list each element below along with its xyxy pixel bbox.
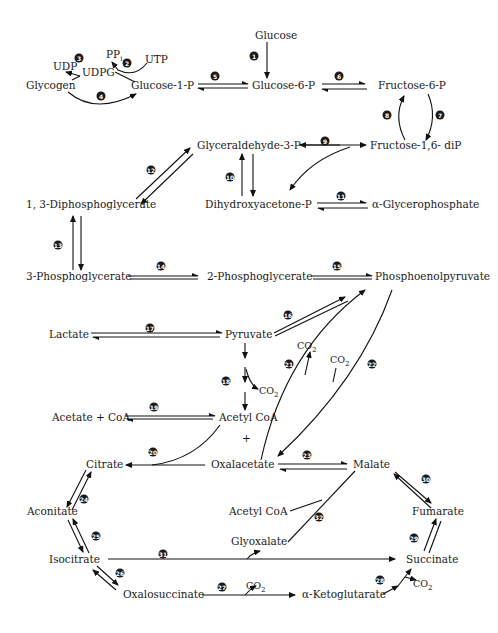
node-fructose-1-6-dip: Fructose-1,6- diP xyxy=(370,139,461,151)
step-marker-31: 31 xyxy=(159,550,168,559)
node-fructose-6-p: Fructose-6-P xyxy=(378,79,446,91)
svg-text:20: 20 xyxy=(149,449,157,456)
svg-text:4: 4 xyxy=(99,93,103,100)
step-marker-1: 1 xyxy=(250,52,259,61)
step-marker-5: 5 xyxy=(211,72,220,81)
node-malate: Malate xyxy=(353,458,390,470)
step-marker-14: 14 xyxy=(157,262,166,271)
svg-text:24: 24 xyxy=(80,496,88,503)
node-citrate: Citrate xyxy=(86,458,123,470)
step-marker-19: 19 xyxy=(150,403,159,412)
step-marker-17: 17 xyxy=(146,324,155,333)
svg-text:3: 3 xyxy=(77,55,81,62)
step-marker-28: 28 xyxy=(376,576,385,585)
svg-text:21: 21 xyxy=(285,361,293,368)
node-lactate: Lactate xyxy=(49,328,89,340)
node-alpha-ketoglutarate: α-Ketoglutarate xyxy=(302,588,386,600)
svg-text:27: 27 xyxy=(218,584,226,591)
svg-text:17: 17 xyxy=(146,325,154,332)
svg-text:1: 1 xyxy=(252,53,256,60)
svg-text:18: 18 xyxy=(222,378,230,385)
node-succinate: Succinate xyxy=(406,553,459,565)
svg-text:28: 28 xyxy=(376,577,384,584)
svg-text:23: 23 xyxy=(303,452,311,459)
node-alpha-glycerophosphate: α-Glycerophosphate xyxy=(372,198,479,210)
svg-text:12: 12 xyxy=(147,167,155,174)
plus-sign: + xyxy=(242,432,251,444)
step-marker-23: 23 xyxy=(303,451,312,460)
step-marker-21: 21 xyxy=(285,360,294,369)
node-glucose: Glucose xyxy=(255,29,297,41)
node-utp: UTP xyxy=(145,53,168,65)
svg-text:30: 30 xyxy=(422,476,430,483)
node-co2-pep-carboxykinase: CO2 xyxy=(330,354,350,368)
step-marker-15: 15 xyxy=(333,262,342,271)
step-marker-26: 26 xyxy=(116,569,125,578)
svg-text:25: 25 xyxy=(92,533,100,540)
node-pyruvate: Pyruvate xyxy=(225,328,272,340)
step-marker-4: 4 xyxy=(97,92,106,101)
node-2-phosphoglycerate: 2-Phosphoglycerate xyxy=(207,270,312,282)
svg-text:2: 2 xyxy=(125,60,129,67)
svg-text:14: 14 xyxy=(157,263,165,270)
node-udpg: UDPG xyxy=(82,66,115,78)
step-marker-27: 27 xyxy=(218,583,227,592)
node-glyoxalate: Glyoxalate xyxy=(231,535,287,547)
step-marker-8: 8 xyxy=(383,111,392,120)
svg-text:32: 32 xyxy=(315,514,323,521)
step-marker-9: 9 xyxy=(321,137,330,146)
svg-text:13: 13 xyxy=(54,242,62,249)
node-co2-oxalosuccinate: CO2 xyxy=(246,580,266,594)
node-glucose-6-p: Glucose-6-P xyxy=(252,79,315,91)
node-dihydroxyacetone-p: Dihydroxyacetone-P xyxy=(205,198,312,210)
node-3-phosphoglycerate: 3-Phosphoglycerate xyxy=(26,270,131,282)
step-marker-7: 7 xyxy=(436,111,445,120)
metabolic-pathway-diagram: Glucose PPi UTP UDP UDPG Glycogen Glucos… xyxy=(0,0,498,633)
node-oxalosuccinate: Oxalosuccinate xyxy=(123,588,204,600)
step-marker-3: 3 xyxy=(75,54,84,63)
node-1-3-diphosphoglycerate: 1, 3-Diphosphoglycerate xyxy=(26,198,156,210)
node-glyceraldehyde-3-p: Glyceraldehyde-3-P xyxy=(197,139,301,151)
svg-text:9: 9 xyxy=(323,138,327,145)
step-marker-12: 12 xyxy=(147,166,156,175)
node-fumarate: Fumarate xyxy=(412,505,464,517)
node-acetyl-coa-glyoxylate: Acetyl CoA xyxy=(228,505,288,517)
svg-text:15: 15 xyxy=(333,263,341,270)
svg-text:22: 22 xyxy=(368,361,376,368)
step-marker-13: 13 xyxy=(54,241,63,250)
svg-text:19: 19 xyxy=(150,404,158,411)
step-marker-29: 29 xyxy=(410,534,419,543)
svg-text:10: 10 xyxy=(226,174,234,181)
step-marker-10: 10 xyxy=(226,173,235,182)
node-co2-pyruvate-decarboxylation: CO2 xyxy=(259,385,279,399)
step-marker-25: 25 xyxy=(92,532,101,541)
svg-text:26: 26 xyxy=(116,570,124,577)
step-marker-32: 32 xyxy=(315,513,324,522)
svg-text:11: 11 xyxy=(337,193,345,200)
node-acetyl-coa: Acetyl CoA xyxy=(218,411,278,423)
step-marker-16: 16 xyxy=(284,311,293,320)
node-aconitate: Aconitate xyxy=(26,505,78,517)
svg-text:29: 29 xyxy=(410,535,418,542)
step-marker-2: 2 xyxy=(123,59,132,68)
svg-text:31: 31 xyxy=(159,551,167,558)
svg-text:16: 16 xyxy=(284,312,292,319)
step-marker-18: 18 xyxy=(222,377,231,386)
svg-text:8: 8 xyxy=(385,112,389,119)
step-marker-22: 22 xyxy=(368,360,377,369)
node-phosphoenolpyruvate: Phosphoenolpyruvate xyxy=(375,270,490,282)
step-marker-24: 24 xyxy=(80,495,89,504)
node-glucose-1-p: Glucose-1-P xyxy=(131,79,194,91)
node-acetate-coa: Acetate + CoA xyxy=(51,411,130,423)
svg-text:6: 6 xyxy=(337,73,341,80)
node-ppi: PPi xyxy=(106,48,123,63)
node-oxalacetate: Oxalacetate xyxy=(211,458,274,470)
node-co2-pyruvate-carboxylase: CO2 xyxy=(297,340,317,354)
step-marker-6: 6 xyxy=(335,72,344,81)
step-marker-30: 30 xyxy=(422,475,431,484)
step-marker-20: 20 xyxy=(149,448,158,457)
svg-text:5: 5 xyxy=(213,73,217,80)
node-isocitrate: Isocitrate xyxy=(49,553,100,565)
node-udp: UDP xyxy=(53,60,77,72)
svg-text:7: 7 xyxy=(438,112,442,119)
